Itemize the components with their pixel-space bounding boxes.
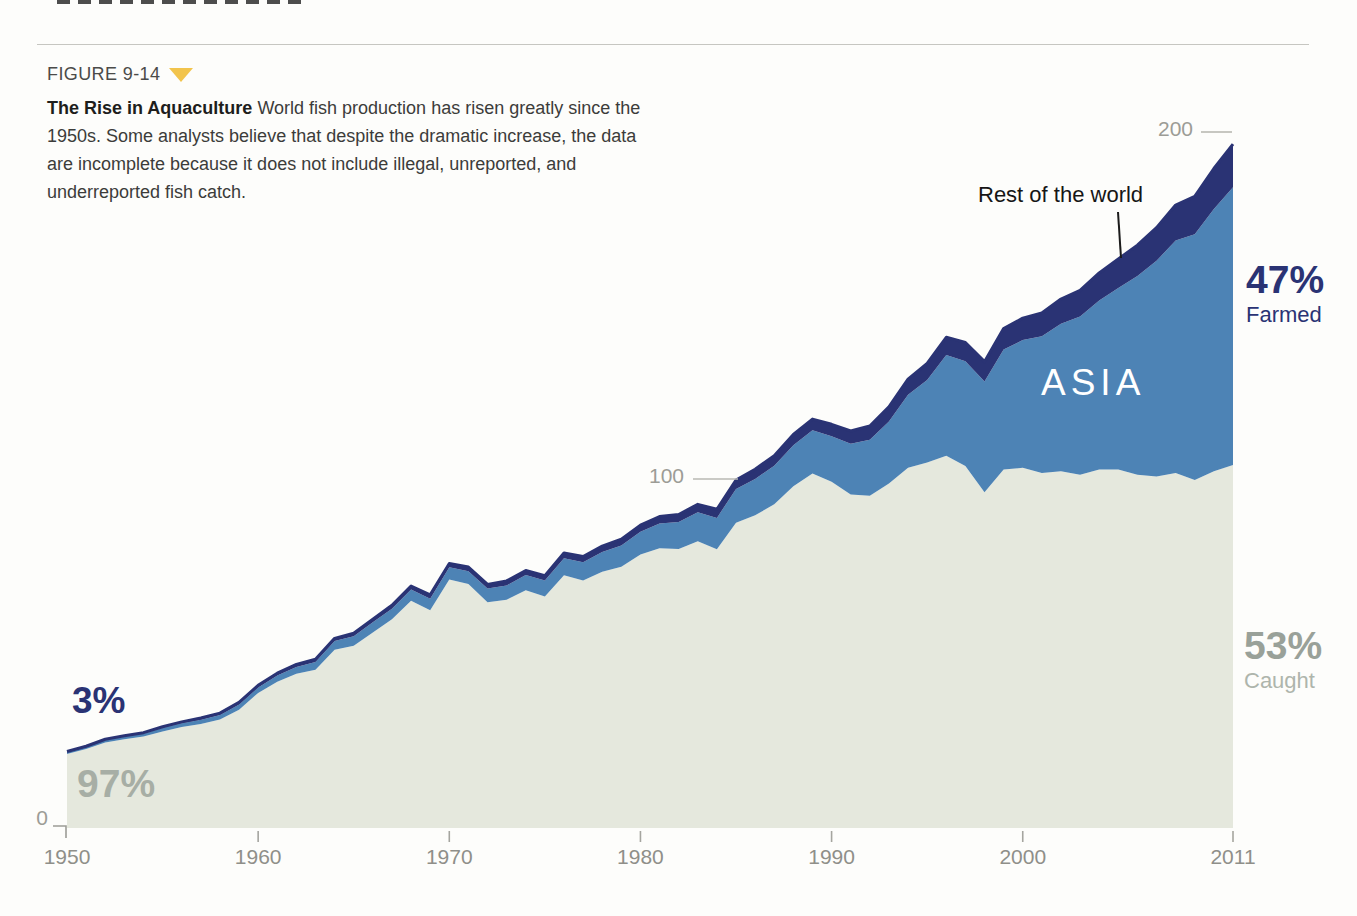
initial-farmed-percent-label: 3%	[72, 680, 125, 722]
book-figure-page: FIGURE 9-14 The Rise in Aquaculture Worl…	[0, 0, 1357, 916]
initial-caught-percent-label: 97%	[77, 762, 155, 806]
x-axis-label-2011: 2011	[1198, 845, 1268, 869]
y-axis-label-0: 0	[18, 806, 48, 830]
caught-percent-label: 53%	[1244, 624, 1322, 668]
farmed-word-label: Farmed	[1246, 302, 1322, 328]
y-axis-label-200: 200	[1143, 117, 1193, 141]
farmed-percent-label: 47%	[1246, 258, 1324, 302]
asia-area-label: ASIA	[1041, 362, 1145, 404]
x-axis-labels: 1950196019701980199020002011	[0, 845, 1357, 875]
rest-of-world-annotation: Rest of the world	[978, 182, 1143, 208]
caught-area	[67, 456, 1233, 828]
x-axis-label-1990: 1990	[797, 845, 867, 869]
y-axis-label-100: 100	[628, 464, 684, 488]
x-axis-label-1970: 1970	[414, 845, 484, 869]
x-axis-label-1960: 1960	[223, 845, 293, 869]
x-axis-label-2000: 2000	[988, 845, 1058, 869]
origin-tick	[53, 826, 66, 838]
x-axis-label-1950: 1950	[32, 845, 102, 869]
rest-of-world-pointer-line	[1118, 212, 1121, 258]
caught-word-label: Caught	[1244, 668, 1315, 694]
x-axis-label-1980: 1980	[605, 845, 675, 869]
